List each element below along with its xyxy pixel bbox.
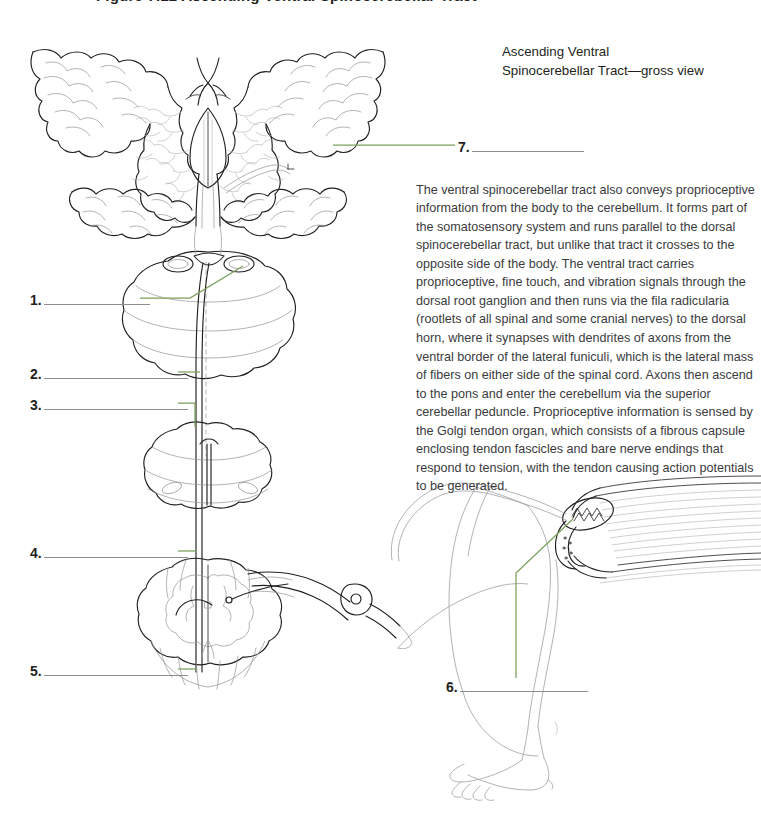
cutoff-figure-heading: Figure 7.12 Ascending Ventral Spinocereb… bbox=[0, 0, 761, 7]
answer-blank-5-number: 5. bbox=[30, 664, 44, 678]
answer-blank-3-number: 3. bbox=[30, 398, 44, 412]
cerebellum-cross-section bbox=[31, 50, 385, 239]
answer-blank-6-rule[interactable] bbox=[460, 691, 588, 692]
answer-blank-7-rule[interactable] bbox=[472, 151, 584, 152]
answer-blank-3[interactable]: 3. bbox=[30, 396, 188, 412]
answer-blank-2-rule[interactable] bbox=[44, 378, 188, 379]
answer-blank-7[interactable]: 7. bbox=[458, 138, 584, 154]
figure-heading-line-1: Ascending Ventral bbox=[502, 42, 754, 61]
leg-and-muscle bbox=[391, 476, 761, 800]
leader-line-1 bbox=[140, 266, 243, 298]
answer-blank-6[interactable]: 6. bbox=[446, 678, 588, 694]
answer-blank-5[interactable]: 5. bbox=[30, 662, 188, 678]
answer-blank-7-number: 7. bbox=[458, 140, 472, 154]
answer-blank-4[interactable]: 4. bbox=[30, 544, 188, 560]
golgi-tendon-organ bbox=[555, 492, 617, 569]
answer-blank-3-rule[interactable] bbox=[44, 409, 188, 410]
answer-blank-1[interactable]: 1. bbox=[30, 291, 150, 307]
answer-blank-5-rule[interactable] bbox=[44, 675, 188, 676]
spinal-cord-thoracic-section bbox=[144, 422, 272, 509]
figure-heading: Ascending Ventral Spinocerebellar Tract—… bbox=[502, 42, 754, 80]
figure-page: Figure 7.12 Ascending Ventral Spinocereb… bbox=[0, 0, 761, 814]
answer-blank-6-number: 6. bbox=[446, 680, 460, 694]
cutoff-figure-heading-text: Figure 7.12 Ascending Ventral Spinocereb… bbox=[0, 0, 761, 4]
answer-blank-4-number: 4. bbox=[30, 546, 44, 560]
figure-body-text: The ventral spinocerebellar tract also c… bbox=[416, 181, 758, 496]
answer-blank-1-rule[interactable] bbox=[44, 304, 150, 305]
answer-blank-4-rule[interactable] bbox=[44, 557, 188, 558]
leader-line-6 bbox=[516, 519, 573, 678]
answer-blank-2[interactable]: 2. bbox=[30, 365, 188, 381]
answer-blank-1-number: 1. bbox=[30, 293, 44, 307]
figure-heading-line-2: Spinocerebellar Tract—gross view bbox=[502, 61, 754, 80]
ascending-tract-fiber bbox=[196, 263, 209, 672]
answer-blank-2-number: 2. bbox=[30, 367, 44, 381]
